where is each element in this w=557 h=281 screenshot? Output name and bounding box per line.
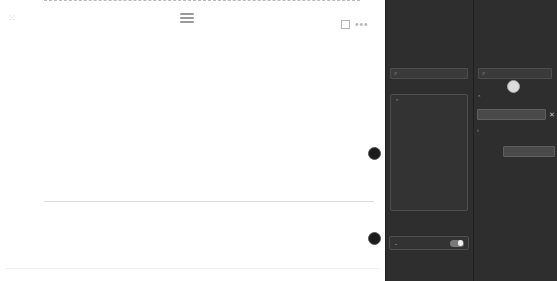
- callout-badge-3: [507, 80, 520, 93]
- focus-mode-icon[interactable]: [341, 20, 350, 29]
- more-options-icon[interactable]: •••: [355, 22, 369, 28]
- chart-gridlines: [58, 44, 374, 201]
- search-icon: ⌕: [482, 70, 485, 77]
- constant-line-value-input[interactable]: [503, 146, 555, 157]
- right-side-panels: ⌕ ⌃ ⌄ ⌕ ⌃ ✕: [385, 0, 557, 281]
- callout-badge-2: [368, 232, 381, 245]
- chevron-down-icon: ⌄: [394, 240, 398, 246]
- data-label-toggle-switch[interactable]: [450, 240, 464, 247]
- constant-line-sublabel-row: ›: [477, 127, 555, 133]
- hamburger-menu-icon[interactable]: [180, 13, 194, 23]
- chart-visual-panel: ⁙ •••: [0, 0, 385, 281]
- viz-search-input[interactable]: ⌕: [390, 68, 468, 79]
- callout-badge-1: [368, 147, 381, 160]
- drag-grip-icon[interactable]: ⁙: [8, 14, 16, 22]
- constant-line-value-row: [477, 146, 555, 157]
- y-axis: [14, 44, 58, 201]
- chevron-right-icon: ›: [477, 127, 479, 133]
- chevron-up-icon: ⌃: [477, 94, 481, 100]
- chart-titlebar: ⁙ •••: [0, 6, 385, 28]
- analytics-search-input[interactable]: ⌕: [478, 68, 552, 79]
- chart-plot-area: [14, 44, 374, 201]
- search-icon: ⌕: [394, 70, 397, 77]
- chevron-up-icon: ⌃: [395, 98, 399, 104]
- data-colors-section: ⌃: [390, 94, 468, 211]
- chart-bottom-border: [6, 268, 380, 269]
- analytics-panel: ⌕ ⌃ ✕ ›: [473, 0, 557, 281]
- close-x-icon[interactable]: ✕: [549, 111, 555, 119]
- x-axis-baseline: [44, 201, 374, 202]
- data-colors-header[interactable]: ⌃: [391, 95, 467, 107]
- constant-line-section-header[interactable]: ⌃: [477, 94, 555, 100]
- constant-line-name-row: ✕: [477, 109, 555, 120]
- constant-reference-line[interactable]: [44, 0, 360, 1]
- visualizations-panel: ⌕ ⌃ ⌄: [385, 0, 473, 281]
- constant-line-name-input[interactable]: [477, 109, 546, 120]
- data-label-toggle-row[interactable]: ⌄: [389, 236, 469, 250]
